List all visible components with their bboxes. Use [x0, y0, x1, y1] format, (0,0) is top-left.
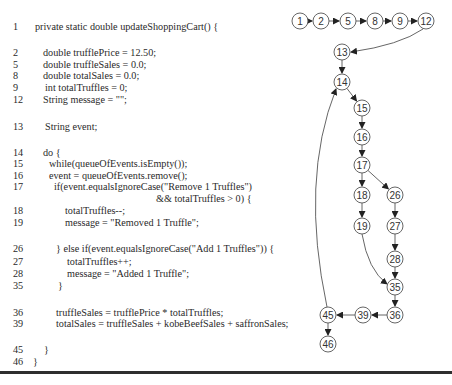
node-5: 5 — [340, 13, 356, 29]
node-label: 18 — [356, 190, 368, 201]
node-12: 12 — [418, 13, 434, 29]
node-label: 39 — [357, 310, 369, 321]
node-label: 15 — [356, 103, 368, 114]
node-9: 9 — [392, 13, 408, 29]
node-14: 14 — [334, 74, 350, 90]
control-flow-graph: 1258912131415161718261927283536394546 — [0, 0, 452, 372]
edge-19-to-35 — [362, 234, 387, 284]
graph-edges — [308, 21, 423, 335]
node-18: 18 — [354, 187, 370, 203]
node-label: 16 — [356, 132, 368, 143]
graph-canvas: 1258912131415161718261927283536394546 — [0, 0, 452, 372]
node-label: 14 — [336, 77, 348, 88]
node-27: 27 — [387, 218, 403, 234]
node-label: 35 — [389, 282, 401, 293]
node-label: 46 — [322, 339, 334, 350]
node-1: 1 — [292, 13, 308, 29]
node-label: 17 — [356, 160, 368, 171]
node-26: 26 — [387, 187, 403, 203]
node-45: 45 — [320, 307, 336, 323]
node-label: 28 — [389, 254, 401, 265]
edge-14-to-15 — [347, 88, 357, 101]
node-39: 39 — [355, 307, 371, 323]
node-label: 19 — [356, 221, 368, 232]
node-17: 17 — [354, 157, 370, 173]
node-label: 13 — [336, 47, 348, 58]
node-35: 35 — [387, 279, 403, 295]
bottom-divider — [0, 371, 452, 374]
node-13: 13 — [334, 44, 350, 60]
node-label: 27 — [389, 221, 401, 232]
node-label: 9 — [397, 16, 403, 27]
node-8: 8 — [367, 13, 383, 29]
node-15: 15 — [354, 100, 370, 116]
edge-17-to-26 — [368, 170, 388, 189]
node-label: 36 — [389, 310, 401, 321]
node-46: 46 — [320, 336, 336, 352]
node-label: 45 — [322, 310, 334, 321]
node-label: 12 — [420, 16, 432, 27]
node-label: 5 — [345, 16, 351, 27]
node-label: 1 — [297, 16, 303, 27]
edge-45-to-14 — [315, 89, 336, 307]
node-2: 2 — [313, 13, 329, 29]
node-19: 19 — [354, 218, 370, 234]
node-28: 28 — [387, 251, 403, 267]
node-36: 36 — [387, 307, 403, 323]
node-16: 16 — [354, 129, 370, 145]
graph-nodes: 1258912131415161718261927283536394546 — [292, 13, 434, 352]
edge-12-to-13 — [351, 29, 423, 52]
node-label: 2 — [318, 16, 324, 27]
node-label: 26 — [389, 190, 401, 201]
node-label: 8 — [372, 16, 378, 27]
